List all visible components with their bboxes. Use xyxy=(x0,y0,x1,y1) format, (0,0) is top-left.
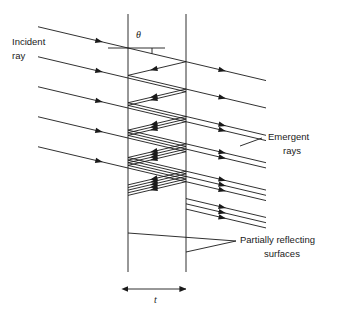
emergent-ray-arrowhead-1 xyxy=(218,94,226,99)
emergent-ray-arrowhead-15 xyxy=(218,204,226,209)
emergent-ray-arrowhead-14 xyxy=(218,187,226,192)
internal-back-arrowhead-0 xyxy=(150,66,158,71)
incident-ray-2 xyxy=(38,87,128,108)
ray-paths xyxy=(38,27,266,228)
emergent-rays-label-line1: Emergent xyxy=(268,131,310,142)
internal-forward-0 xyxy=(128,48,186,62)
incident-ray-1 xyxy=(38,57,128,78)
emergent-ray-arrowhead-5 xyxy=(218,127,226,132)
emergent-ray-arrowhead-10 xyxy=(218,176,226,181)
incident-ray-label-line1: Incident xyxy=(12,36,46,47)
incident-ray-arrowhead-2 xyxy=(95,98,103,103)
emergent-ray-arrowhead-17 xyxy=(218,209,226,214)
incident-ray-arrowhead-0 xyxy=(95,38,103,43)
emergent-ray-arrowhead-8 xyxy=(218,154,226,159)
incident-ray-4 xyxy=(38,147,128,168)
emergent-ray-arrowhead-3 xyxy=(218,122,226,127)
partially-reflecting-label-line1: Partially reflecting xyxy=(240,234,315,245)
diagram-canvas: Incident ray Emergent rays Partially ref… xyxy=(0,0,339,311)
incident-ray-arrowhead-4 xyxy=(95,158,103,163)
emergent-ray-5 xyxy=(186,122,266,141)
partially-reflecting-label-line2: surfaces xyxy=(264,248,300,259)
emergent-ray-arrowhead-19 xyxy=(218,214,226,219)
incident-ray-0 xyxy=(38,27,128,48)
leader-to-emergent-rays xyxy=(240,138,262,146)
thickness-label: t xyxy=(154,294,157,305)
optics-diagram: Incident ray Emergent rays Partially ref… xyxy=(0,0,339,311)
angle-theta-label: θ xyxy=(136,29,141,40)
emergent-ray-arrowhead-12 xyxy=(218,182,226,187)
incident-ray-label-line2: ray xyxy=(12,50,25,61)
leader-to-left-surface xyxy=(128,233,236,241)
internal-forward-5 xyxy=(128,78,186,92)
internal-forward-1 xyxy=(128,75,186,89)
leader-to-right-surface xyxy=(186,241,236,252)
emergent-rays-label-line2: rays xyxy=(283,145,301,156)
emergent-ray-arrowhead-0 xyxy=(218,67,226,72)
emergent-ray-3 xyxy=(186,116,266,135)
internal-forward-6 xyxy=(128,105,186,119)
incident-ray-arrowhead-1 xyxy=(95,68,103,73)
emergent-ray-arrowhead-6 xyxy=(218,149,226,154)
emergent-ray-14 xyxy=(186,182,266,201)
incident-ray-3 xyxy=(38,117,128,138)
incident-ray-arrowhead-3 xyxy=(95,128,103,133)
